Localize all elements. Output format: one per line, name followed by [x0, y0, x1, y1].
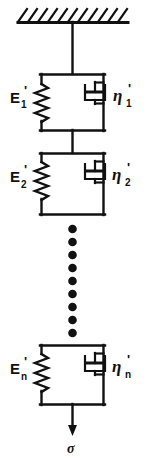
dashpot-n-symbol: η — [112, 357, 121, 376]
viscoelastic-model-diagram: E 1 ' η 1 ' — [0, 0, 146, 458]
stress-arrow: σ — [67, 404, 77, 456]
spring-1-prime: ' — [24, 83, 27, 98]
spring-n-prime: ' — [24, 354, 27, 369]
dashpot-2-subscript: 2 — [125, 177, 131, 188]
spring-1-subscript: 1 — [21, 99, 27, 110]
spring-1-label: E 1 ' — [10, 83, 27, 110]
spring-2-prime: ' — [24, 162, 27, 177]
dashpot-1-symbol: η — [113, 86, 122, 105]
dashpot-1-icon — [85, 74, 105, 131]
spring-n-symbol: E — [10, 360, 20, 377]
spring-n-icon — [35, 345, 48, 405]
spring-2-icon — [35, 153, 48, 215]
dashpot-n-subscript: n — [125, 369, 131, 380]
spring-1-icon — [35, 74, 48, 131]
dashpot-2-prime: ' — [127, 160, 130, 175]
fixed-support-hatching — [18, 9, 128, 23]
model-figure: E 1 ' η 1 ' — [0, 0, 146, 458]
stress-label: σ — [67, 441, 75, 456]
dashpot-n-prime: ' — [127, 352, 130, 367]
spring-2-label: E 2 ' — [10, 162, 27, 190]
dashpot-n-icon — [85, 345, 105, 405]
dashpot-1-label: η 1 ' — [113, 81, 132, 109]
kelvin-element-1: E 1 ' η 1 ' — [10, 74, 132, 131]
dashpot-1-subscript: 1 — [126, 98, 132, 109]
dashpot-2-label: η 2 ' — [112, 160, 131, 188]
dashpot-2-symbol: η — [112, 165, 121, 184]
spring-2-subscript: 2 — [21, 179, 27, 190]
kelvin-element-n: E n ' η n ' — [10, 345, 131, 405]
dashpot-n-label: η n ' — [112, 352, 131, 380]
spring-n-label: E n ' — [10, 354, 27, 382]
spring-2-symbol: E — [10, 168, 20, 185]
kelvin-element-2: E 2 ' η 2 ' — [10, 153, 131, 215]
spring-n-subscript: n — [21, 371, 27, 382]
dashpot-1-prime: ' — [128, 81, 131, 96]
dashpot-2-icon — [85, 153, 105, 215]
spring-1-symbol: E — [10, 89, 20, 106]
vertical-dot-ellipsis — [68, 225, 77, 338]
